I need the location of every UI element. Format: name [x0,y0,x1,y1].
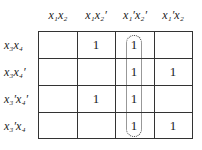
kmap-cell [38,85,76,112]
kmap-cell [77,58,115,85]
row-header-x3x4: x₃x₄ [4,38,36,52]
row-header-x3-prime-x4: x₃′x₄ [4,119,36,133]
kmap-cell: 1 [154,112,192,139]
kmap-cell: 1 [154,58,192,85]
column-header-x1x2-prime: x₁x₂′ [77,8,115,22]
kmap-cell: 1 [77,31,115,58]
column-header-x1-prime-x2: x₁′x₂ [154,8,192,22]
kmap-cell [77,112,115,139]
kmap-cell: 1 [77,85,115,112]
kmap-cell [38,112,76,139]
row-header-x3x4-prime: x₃x₄′ [4,65,36,79]
grouping-loop [126,35,142,137]
kmap-cell [154,85,192,112]
column-header-x1x2: x₁x₂ [39,8,77,22]
kmap-cell [154,31,192,58]
column-header-x1-prime-x2-prime: x₁′x₂′ [116,8,154,22]
kmap-cell [38,31,76,58]
row-header-x3-prime-x4-prime: x₃′x₄′ [4,92,36,106]
kmap-cell [38,58,76,85]
